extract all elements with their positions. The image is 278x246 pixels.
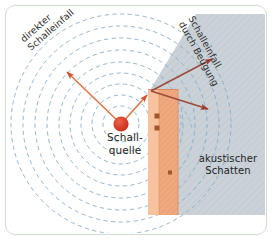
barrier-wall — [148, 89, 178, 215]
label-sound-source: Schall- quelle — [98, 131, 152, 157]
acoustic-diffraction-figure: direkter Schalleinfall Schalleinfall dur… — [0, 0, 278, 246]
label-acoustic-shadow: akustischer Schatten — [186, 153, 270, 177]
direct-sound-ray — [67, 72, 121, 124]
sound-source-point — [113, 116, 128, 131]
